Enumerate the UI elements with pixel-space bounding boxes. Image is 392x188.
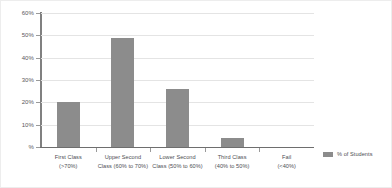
gridline-40: [41, 58, 314, 59]
y-axis-label-20: 20%: [22, 99, 34, 105]
y-tick-20: [36, 102, 40, 103]
category-label-1: Upper SecondClass (60% to 70%): [96, 153, 151, 183]
category-label-line2: (40% to 50%): [205, 162, 260, 171]
category-label-line1: Fail: [259, 153, 314, 162]
gridline-30: [41, 80, 314, 81]
category-label-line2: Class (50% to 60%): [150, 162, 205, 171]
x-tick-2: [150, 148, 151, 152]
chart-legend: % of Students: [323, 151, 372, 157]
y-axis-label-40: 40%: [22, 55, 34, 61]
y-axis-label-50: 50%: [22, 32, 34, 38]
category-label-2: Lower SecondClass (50% to 60%): [150, 153, 205, 183]
category-label-line2: (>70%): [41, 162, 96, 171]
category-label-line2: Class (60% to 70%): [96, 162, 151, 171]
y-tick-60: [36, 13, 40, 14]
category-label-4: Fail(<40%): [259, 153, 314, 183]
gridline-50: [41, 35, 314, 36]
category-label-line2: (<40%): [259, 162, 314, 171]
legend-swatch-icon: [323, 152, 333, 157]
y-tick-40: [36, 58, 40, 59]
category-label-line1: First Class: [41, 153, 96, 162]
y-tick-10: [36, 125, 40, 126]
y-axis-label-0: %: [29, 144, 34, 150]
gridline-60: [41, 13, 314, 14]
bar: [166, 89, 189, 147]
y-axis-label-30: 30%: [22, 77, 34, 83]
legend-label: % of Students: [337, 151, 372, 157]
category-label-0: First Class(>70%): [41, 153, 96, 183]
bar: [221, 138, 244, 147]
y-tick-30: [36, 80, 40, 81]
category-label-line1: Upper Second: [96, 153, 151, 162]
bar: [57, 102, 80, 147]
x-tick-4: [259, 148, 260, 152]
bar-chart: %10%20%30%40%50%60% First Class(>70%)Upp…: [0, 0, 392, 188]
y-tick-0: [36, 147, 40, 148]
x-tick-3: [205, 148, 206, 152]
x-axis-category-labels: First Class(>70%)Upper SecondClass (60% …: [41, 153, 314, 183]
bar: [111, 38, 134, 147]
plot-area: [41, 13, 314, 147]
x-tick-1: [96, 148, 97, 152]
y-axis-label-10: 10%: [22, 122, 34, 128]
category-label-line1: Lower Second: [150, 153, 205, 162]
category-label-line1: Third Class: [205, 153, 260, 162]
y-axis-label-60: 60%: [22, 10, 34, 16]
category-label-3: Third Class(40% to 50%): [205, 153, 260, 183]
y-tick-50: [36, 35, 40, 36]
